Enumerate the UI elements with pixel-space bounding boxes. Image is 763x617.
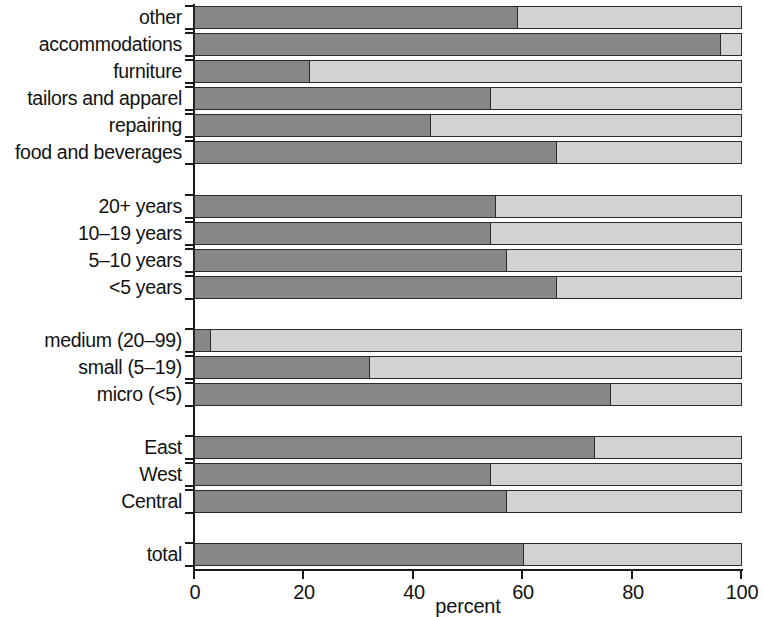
bar-row-label: food and beverages: [0, 141, 182, 164]
bar-row: furniture: [194, 60, 742, 83]
bar-row-label-text: accommodations: [39, 33, 182, 56]
bar-row-label: <5 years: [0, 276, 182, 299]
bar-row-label: accommodations: [0, 33, 182, 56]
bar-light-segment: [194, 222, 742, 245]
bar-row-label: 10–19 years: [0, 222, 182, 245]
bar-row-label: repairing: [0, 114, 182, 137]
y-axis-tick: [185, 55, 194, 57]
bar-row-label-text: food and beverages: [15, 141, 182, 164]
y-axis-tick: [185, 221, 194, 223]
bar-light-segment: [194, 436, 742, 459]
y-axis-tick: [185, 542, 194, 544]
y-axis-tick: [185, 275, 194, 277]
bar-row-label-text: medium (20–99): [44, 329, 182, 352]
y-axis-tick: [185, 458, 194, 460]
bar-row: Central: [194, 490, 742, 513]
bar-dark-segment: [195, 277, 557, 298]
y-axis-tick: [185, 5, 194, 7]
bar-row-label: Central: [0, 490, 182, 513]
bar-row-label: 5–10 years: [0, 249, 182, 272]
bar-row-label: micro (<5): [0, 383, 182, 406]
bar-row-label-text: repairing: [109, 114, 182, 137]
y-axis-tick: [185, 405, 194, 407]
bar-dark-segment: [195, 250, 507, 271]
bar-row: other: [194, 6, 742, 29]
bar-row-label-text: East: [144, 436, 182, 459]
x-axis-tick: [412, 570, 414, 579]
bar-row-label-text: micro (<5): [97, 383, 182, 406]
bar-light-segment: [194, 276, 742, 299]
y-axis-tick: [185, 113, 194, 115]
bar-dark-segment: [195, 142, 557, 163]
y-axis-tick: [185, 489, 194, 491]
bar-row: 20+ years: [194, 195, 742, 218]
bar-row-label-text: small (5–19): [78, 356, 182, 379]
y-axis-tick: [185, 351, 194, 353]
bar-row-label-text: 10–19 years: [78, 222, 182, 245]
bar-light-segment: [194, 543, 742, 566]
bar-row: East: [194, 436, 742, 459]
bar-light-segment: [194, 87, 742, 110]
bar-row-label-text: Central: [121, 490, 182, 513]
y-axis-tick: [185, 565, 194, 567]
y-axis-tick: [185, 217, 194, 219]
bar-dark-segment: [195, 115, 431, 136]
bar-light-segment: [194, 60, 742, 83]
bar-row-label-text: 5–10 years: [89, 249, 182, 272]
bar-row: 10–19 years: [194, 222, 742, 245]
bar-dark-segment: [195, 61, 310, 82]
bar-light-segment: [194, 249, 742, 272]
bar-dark-segment: [195, 437, 595, 458]
bar-dark-segment: [195, 34, 721, 55]
bar-row: medium (20–99): [194, 329, 742, 352]
x-axis-tick: [740, 570, 742, 579]
bar-dark-segment: [195, 88, 491, 109]
y-axis-tick: [185, 328, 194, 330]
bar-dark-segment: [195, 7, 518, 28]
bar-row: food and beverages: [194, 141, 742, 164]
bar-row-label: small (5–19): [0, 356, 182, 379]
y-axis-tick: [185, 462, 194, 464]
bar-row-label: 20+ years: [0, 195, 182, 218]
bar-dark-segment: [195, 196, 496, 217]
bar-row: West: [194, 463, 742, 486]
bar-row-label: total: [0, 543, 182, 566]
bar-light-segment: [194, 6, 742, 29]
bar-light-segment: [194, 33, 742, 56]
y-axis-tick: [185, 485, 194, 487]
bar-dark-segment: [195, 223, 491, 244]
x-axis-tick: [302, 570, 304, 579]
y-axis-tick: [185, 512, 194, 514]
bar-row-label-text: other: [139, 6, 182, 29]
x-axis-title: percent: [194, 596, 742, 616]
bar-row: <5 years: [194, 276, 742, 299]
bar-row: repairing: [194, 114, 742, 137]
bar-light-segment: [194, 195, 742, 218]
bar-row-label-text: <5 years: [109, 276, 182, 299]
bar-row: micro (<5): [194, 383, 742, 406]
y-axis-tick: [185, 298, 194, 300]
bar-row-label-text: furniture: [113, 60, 182, 83]
bar-dark-segment: [195, 464, 491, 485]
bar-row-label: tailors and apparel: [0, 87, 182, 110]
bar-row: tailors and apparel: [194, 87, 742, 110]
bar-dark-segment: [195, 357, 370, 378]
bar-row: 5–10 years: [194, 249, 742, 272]
bar-row-label-text: 20+ years: [99, 195, 182, 218]
bar-row: accommodations: [194, 33, 742, 56]
bar-row-label-text: total: [147, 543, 182, 566]
x-axis-tick: [631, 570, 633, 579]
bar-row-label-text: West: [139, 463, 182, 486]
y-axis-tick: [185, 244, 194, 246]
bar-row-label-text: tailors and apparel: [27, 87, 182, 110]
bar-dark-segment: [195, 491, 507, 512]
y-axis-tick: [185, 86, 194, 88]
bar-light-segment: [194, 114, 742, 137]
y-axis-tick: [185, 435, 194, 437]
y-axis-tick: [185, 378, 194, 380]
x-axis-line: [193, 569, 743, 571]
y-axis-tick: [185, 355, 194, 357]
bar-row-label: medium (20–99): [0, 329, 182, 352]
